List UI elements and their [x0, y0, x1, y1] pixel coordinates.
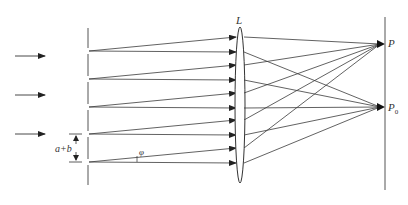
ray-angled: [89, 37, 236, 51]
point-p0-label: P0: [387, 101, 399, 116]
ray-horizontal: [89, 79, 236, 80]
ray-angled: [89, 148, 236, 162]
lens: [235, 27, 245, 183]
point-p-label: P: [387, 37, 395, 49]
diffraction-diagram: a+b φ L P P0: [0, 0, 408, 205]
rays-to-screen: [244, 37, 380, 163]
ray-angled: [89, 65, 236, 79]
ray-angled: [89, 120, 236, 134]
rays-to-lens: [89, 37, 236, 163]
ray-horizontal: [89, 51, 236, 52]
incident-light-arrows: [15, 56, 45, 134]
lens-label: L: [235, 14, 242, 26]
grating-constant-label: a+b: [55, 143, 72, 154]
ray-horizontal: [89, 134, 236, 135]
angle-label: φ: [139, 147, 144, 157]
ray-horizontal: [89, 107, 236, 108]
focus-p0-arrow-icon: [377, 103, 385, 111]
focus-p-arrow-icon: [377, 40, 385, 48]
ray-horizontal: [89, 162, 236, 163]
ray-angled: [89, 93, 236, 107]
point-p0-subscript: 0: [395, 108, 399, 116]
